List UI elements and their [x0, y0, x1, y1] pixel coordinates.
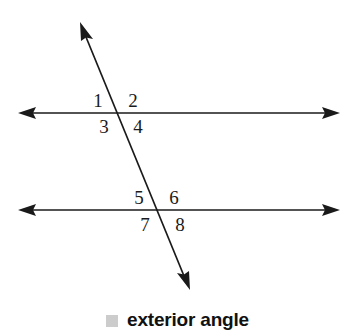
angle-label-2: 2: [128, 90, 138, 111]
gray-square-swatch-icon: [106, 315, 118, 327]
geometry-figure: 1 2 3 4 5 6 7 8: [0, 0, 355, 336]
angle-label-8: 8: [175, 214, 185, 235]
upper-parallel-line: [18, 107, 340, 119]
caption-label: exterior angle: [127, 309, 249, 331]
angle-label-4: 4: [133, 116, 143, 137]
angle-label-1: 1: [93, 90, 103, 111]
figure-caption: exterior angle: [0, 303, 355, 336]
angle-label-5: 5: [134, 187, 144, 208]
angle-label-6: 6: [169, 187, 179, 208]
transversal-line: [80, 22, 190, 290]
angle-label-7: 7: [140, 214, 150, 235]
diagram-canvas: 1 2 3 4 5 6 7 8: [0, 0, 355, 336]
transversal-line-segment: [86, 37, 184, 276]
angle-label-3: 3: [99, 116, 109, 137]
